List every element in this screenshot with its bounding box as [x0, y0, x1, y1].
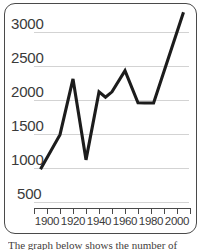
x-axis-tick: [177, 208, 178, 214]
x-axis-tick-label: 1960: [113, 215, 137, 227]
chart-figure: 30002500200015001000500 1900192019401960…: [0, 0, 203, 250]
x-axis-tick: [86, 208, 87, 214]
x-axis-tick-label: 1920: [61, 215, 85, 227]
x-axis-tick: [125, 208, 126, 214]
data-series-line: [5, 4, 198, 235]
x-axis-tick-label: 1980: [139, 215, 163, 227]
plot-area: 30002500200015001000500 1900192019401960…: [5, 4, 198, 235]
x-axis-tick: [34, 208, 35, 214]
x-axis-tick: [164, 208, 165, 214]
figure-caption: The graph below shows the number of: [8, 239, 198, 250]
x-axis-tick: [138, 208, 139, 214]
x-axis-tick: [112, 208, 113, 214]
x-axis-tick: [60, 208, 61, 214]
x-axis-tick: [190, 208, 191, 214]
series-1-polyline: [41, 12, 184, 169]
x-axis-tick-label: 1900: [35, 215, 59, 227]
x-axis-tick: [73, 208, 74, 214]
x-axis-tick-label: 1940: [87, 215, 111, 227]
x-axis-tick: [151, 208, 152, 214]
chart-panel: 30002500200015001000500 1900192019401960…: [4, 3, 197, 234]
x-axis-tick: [47, 208, 48, 214]
x-axis-tick-label: 2000: [165, 215, 189, 227]
x-axis-tick: [99, 208, 100, 214]
